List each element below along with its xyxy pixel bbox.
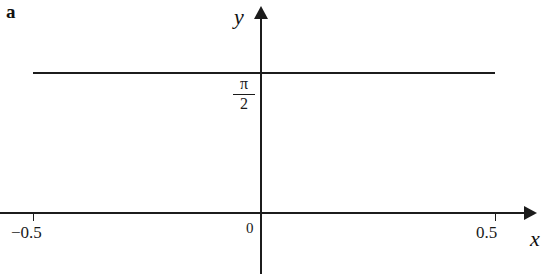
x-tick-label-negative-half: −0.5: [11, 224, 42, 241]
x-tick-mark-negative-half: [33, 213, 34, 221]
x-axis-line: [0, 212, 528, 214]
x-tick-label-positive-half: 0.5: [476, 224, 497, 241]
constant-function-curve: [33, 72, 495, 74]
y-axis-label: y: [234, 6, 244, 28]
fraction-denominator: 2: [231, 95, 257, 113]
y-axis-arrowhead-icon: [254, 6, 268, 19]
fraction-numerator: π: [231, 76, 257, 94]
x-axis-label: x: [530, 228, 540, 250]
origin-label: 0: [246, 221, 254, 236]
figure-panel: a −0.5 0.5 0 x y π 2: [0, 0, 556, 274]
x-axis-arrowhead-icon: [524, 206, 537, 220]
y-axis-line: [260, 14, 262, 274]
panel-letter: a: [6, 2, 16, 21]
x-tick-mark-positive-half: [495, 213, 496, 221]
pi-over-two-label: π 2: [231, 76, 257, 113]
